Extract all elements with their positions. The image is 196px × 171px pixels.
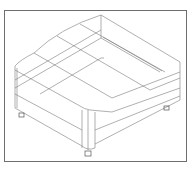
ottoman-base (15, 68, 180, 150)
ottoman-top (15, 15, 180, 112)
ottoman-wireframe-drawing (0, 0, 196, 171)
leg-left (19, 113, 24, 117)
leg-front (85, 151, 91, 156)
